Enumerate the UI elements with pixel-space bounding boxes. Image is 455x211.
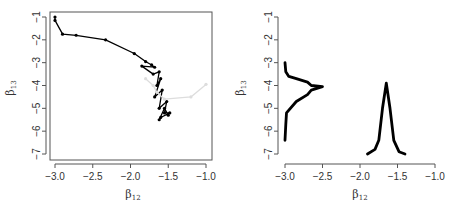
y-tick-label: −7 [31, 148, 42, 160]
y-tick-label: −5 [31, 102, 42, 114]
data-point [53, 15, 56, 18]
data-point [150, 63, 153, 66]
data-point [167, 114, 170, 117]
y-tick-label: −6 [263, 125, 274, 137]
plot-frame [50, 12, 212, 160]
data-point [144, 60, 147, 63]
marginal-density-beta12 [368, 83, 406, 154]
y-tick-label: −3 [31, 57, 42, 69]
data-point [158, 70, 161, 73]
data-point [165, 100, 168, 103]
data-point [161, 88, 164, 91]
x-tick-label: −1.0 [196, 171, 216, 182]
x-tick-label: −2.0 [121, 171, 141, 182]
data-point [153, 66, 156, 69]
data-point [163, 107, 166, 110]
data-point [204, 83, 207, 86]
y-tick-label: −1 [31, 11, 42, 23]
data-point [133, 52, 136, 55]
data-point [53, 19, 56, 22]
y-tick-label: −5 [263, 102, 274, 114]
x-tick-label: −2.0 [350, 171, 370, 182]
x-tick-label: −1.0 [425, 171, 445, 182]
y-axis-label: β13 [234, 80, 248, 95]
data-point [152, 84, 155, 87]
data-point [163, 98, 166, 101]
data-point [140, 64, 143, 67]
data-point [61, 33, 64, 36]
trace-black [55, 17, 170, 120]
data-point [159, 77, 162, 80]
data-point [163, 111, 166, 114]
x-tick-label: −2.5 [83, 171, 103, 182]
data-point [158, 107, 161, 110]
y-tick-label: −7 [263, 148, 274, 160]
y-tick-label: −4 [31, 79, 42, 91]
data-point [189, 95, 192, 98]
data-point [153, 95, 156, 98]
y-tick-label: −2 [31, 34, 42, 46]
marginal-density-beta13 [285, 63, 323, 141]
data-point [155, 91, 158, 94]
figure: −3.0−2.5−2.0−1.5−1.0 −1−2−3−4−5−6−7 β12 … [0, 0, 455, 211]
data-point [104, 38, 107, 41]
x-axis-label: β12 [352, 188, 367, 202]
y-tick-label: −2 [263, 34, 274, 46]
x-tick-label: −1.5 [388, 171, 408, 182]
data-point [75, 34, 78, 37]
data-point [144, 77, 147, 80]
data-point [152, 72, 155, 75]
y-tick-label: −3 [263, 57, 274, 69]
left-panel: −3.0−2.5−2.0−1.5−1.0 −1−2−3−4−5−6−7 β12 … [4, 11, 216, 202]
data-point [155, 84, 158, 87]
data-point [158, 118, 161, 121]
x-tick-label: −1.5 [158, 171, 178, 182]
right-panel: −3.0−2.5−2.0−1.5−1.0 −1−2−3−4−5−6−7 β12 … [234, 11, 445, 202]
y-tick-label: −1 [263, 11, 274, 23]
x-tick-label: −3.0 [45, 171, 65, 182]
y-axis-label: β13 [4, 80, 18, 95]
y-tick-label: −4 [263, 79, 274, 91]
y-tick-label: −6 [31, 125, 42, 137]
x-tick-label: −2.5 [313, 171, 333, 182]
x-tick-label: −3.0 [275, 171, 295, 182]
x-axis-label: β12 [125, 188, 140, 202]
